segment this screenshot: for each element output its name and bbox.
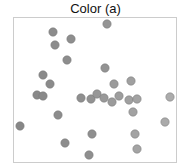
data-point <box>110 80 118 88</box>
data-point <box>77 94 85 102</box>
data-point <box>133 95 141 103</box>
data-point <box>88 130 96 138</box>
data-point <box>127 77 135 85</box>
data-point <box>51 41 59 49</box>
data-point <box>61 139 69 147</box>
data-point <box>46 80 54 88</box>
data-point <box>39 71 47 79</box>
data-point <box>108 98 116 106</box>
data-point <box>166 93 174 101</box>
data-point <box>16 122 24 130</box>
data-point <box>100 94 108 102</box>
data-point <box>49 28 57 36</box>
data-point <box>129 108 137 116</box>
data-point <box>39 92 47 100</box>
data-point <box>115 92 123 100</box>
data-point <box>133 145 141 153</box>
data-point <box>67 35 75 43</box>
data-point <box>85 151 93 159</box>
plot-frame <box>14 18 177 163</box>
data-point <box>131 130 139 138</box>
data-point <box>101 64 109 72</box>
data-point <box>103 20 111 28</box>
data-point <box>54 111 62 119</box>
scatter-plot <box>0 0 191 167</box>
data-point <box>63 56 71 64</box>
data-points <box>16 20 174 159</box>
data-point <box>161 118 169 126</box>
data-point <box>125 96 133 104</box>
